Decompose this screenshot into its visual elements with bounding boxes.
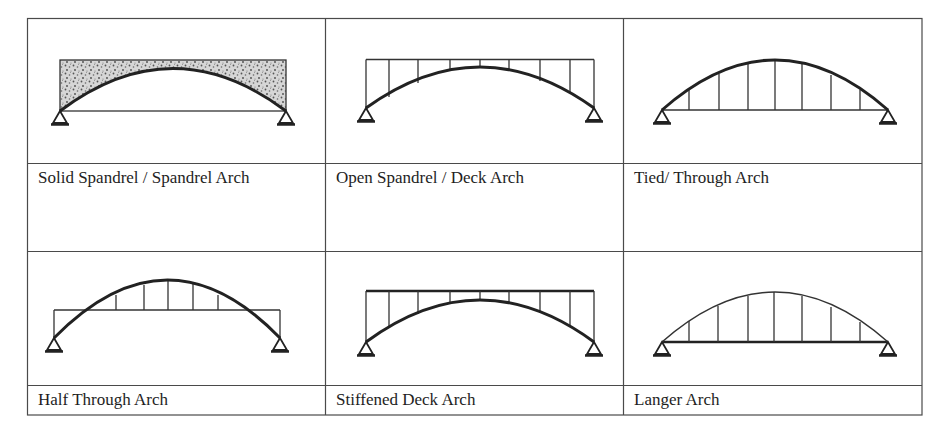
pin-support-icon <box>277 111 295 125</box>
pin-support-icon <box>653 342 671 356</box>
tied-through-arch-drawing <box>653 60 897 124</box>
solid-spandrel-arch-drawing <box>51 60 295 125</box>
solid-spandrel-label: Solid Spandrel / Spandrel Arch <box>38 168 250 188</box>
langer-label: Langer Arch <box>634 390 719 410</box>
pin-support-icon <box>357 342 375 356</box>
pin-support-icon <box>653 110 671 124</box>
pin-support-icon <box>357 108 375 122</box>
open-spandrel-label: Open Spandrel / Deck Arch <box>336 168 524 188</box>
diagram-canvas <box>0 0 951 438</box>
half-through-arch-drawing <box>45 280 289 352</box>
open-spandrel-arch-drawing <box>357 60 603 122</box>
langer-arch-drawing <box>653 292 897 356</box>
pin-support-icon <box>585 342 603 356</box>
stiffened-deck-arch-drawing <box>357 291 603 356</box>
pin-support-icon <box>51 111 69 125</box>
half-through-label: Half Through Arch <box>38 390 168 410</box>
pin-support-icon <box>879 110 897 124</box>
stiffened-deck-label: Stiffened Deck Arch <box>336 390 475 410</box>
pin-support-icon <box>271 338 289 352</box>
pin-support-icon <box>585 108 603 122</box>
pin-support-icon <box>45 338 63 352</box>
table-grid <box>28 19 923 416</box>
tied-through-label: Tied/ Through Arch <box>634 168 769 188</box>
pin-support-icon <box>879 342 897 356</box>
arch-types-diagram: Solid Spandrel / Spandrel Arch Open Span… <box>0 0 951 438</box>
